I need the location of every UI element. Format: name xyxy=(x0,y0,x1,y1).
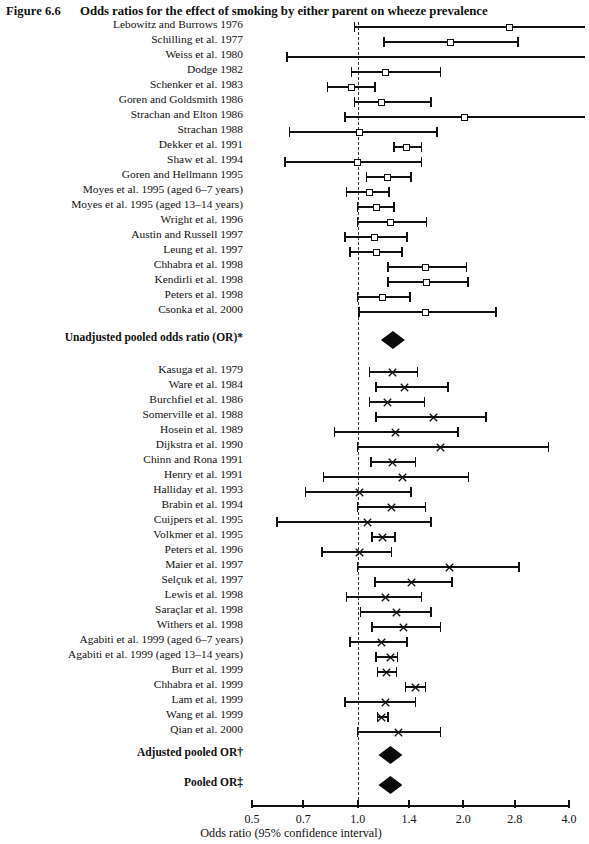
point-estimate-cross xyxy=(383,398,392,407)
ci-cap-upper xyxy=(457,427,459,437)
ci-cap-upper xyxy=(374,82,376,92)
ci-cap-lower xyxy=(354,22,356,32)
ci-cap-upper xyxy=(430,97,432,107)
axis-tick xyxy=(408,800,410,808)
axis-tick xyxy=(251,800,253,808)
axis-tick-label: 0.5 xyxy=(232,812,272,827)
ci-cap-upper xyxy=(421,157,423,167)
confidence-interval-line xyxy=(376,386,448,388)
axis-tick-label: 2.0 xyxy=(443,812,483,827)
ci-cap-upper xyxy=(393,202,395,212)
axis-tick-label: 2.8 xyxy=(495,812,535,827)
ci-cap-lower xyxy=(370,457,372,467)
point-estimate-box xyxy=(382,69,389,76)
ci-cap-lower xyxy=(289,127,291,137)
ci-cap-upper xyxy=(410,172,412,182)
ci-cap-upper xyxy=(518,562,520,572)
point-estimate-cross xyxy=(392,608,401,617)
ci-cap-upper xyxy=(424,397,426,407)
ci-cap-lower xyxy=(387,262,389,272)
point-estimate-cross xyxy=(411,683,420,692)
point-estimate-box xyxy=(366,189,373,196)
ci-cap-lower xyxy=(357,202,359,212)
ci-cap-upper xyxy=(417,367,419,377)
pooled-estimate-diamond xyxy=(378,776,402,794)
ci-cap-lower xyxy=(405,682,407,692)
ci-cap-upper xyxy=(548,442,550,452)
ci-cap-upper xyxy=(440,727,442,737)
pooled-estimate-diamond xyxy=(378,746,402,764)
ci-cap-lower xyxy=(349,637,351,647)
pooled-estimate-diamond xyxy=(381,331,405,349)
ci-cap-lower xyxy=(357,442,359,452)
point-estimate-box xyxy=(378,99,385,106)
ci-cap-lower xyxy=(357,562,359,572)
ci-cap-upper xyxy=(440,622,442,632)
ci-cap-upper xyxy=(397,652,399,662)
ci-cap-lower xyxy=(357,502,359,512)
ci-cap-lower xyxy=(375,652,377,662)
ci-cap-lower xyxy=(286,52,288,62)
ci-cap-lower xyxy=(344,232,346,242)
point-estimate-cross xyxy=(445,563,454,572)
axis-line xyxy=(252,805,569,807)
point-estimate-cross xyxy=(429,413,438,422)
ci-cap-upper xyxy=(409,292,411,302)
ci-cap-lower xyxy=(344,697,346,707)
ci-cap-upper xyxy=(401,247,403,257)
ci-cap-lower xyxy=(351,67,353,77)
ci-cap-upper xyxy=(415,697,417,707)
ci-cap-lower xyxy=(366,172,368,182)
ci-cap-upper xyxy=(468,472,470,482)
point-estimate-cross xyxy=(400,383,409,392)
ci-cap-upper xyxy=(396,667,398,677)
ci-cap-lower xyxy=(387,277,389,287)
point-estimate-box xyxy=(384,174,391,181)
point-estimate-box xyxy=(348,84,355,91)
ci-cap-lower xyxy=(346,592,348,602)
axis-tick xyxy=(514,800,516,808)
point-estimate-cross xyxy=(407,578,416,587)
point-estimate-box xyxy=(422,309,429,316)
point-estimate-box xyxy=(506,24,513,31)
ci-cap-lower xyxy=(334,427,336,437)
axis-tick xyxy=(568,800,570,808)
ci-cap-upper xyxy=(426,217,428,227)
axis-tick-label: 4.0 xyxy=(549,812,589,827)
ci-cap-upper xyxy=(425,682,427,692)
point-estimate-cross xyxy=(388,458,397,467)
point-estimate-cross xyxy=(386,653,395,662)
point-estimate-cross xyxy=(377,638,386,647)
point-estimate-cross xyxy=(355,488,364,497)
ci-cap-lower xyxy=(369,397,371,407)
axis-tick xyxy=(357,800,359,808)
confidence-interval-line xyxy=(358,446,549,448)
confidence-interval-line xyxy=(290,131,437,133)
ci-cap-upper xyxy=(436,127,438,137)
axis-tick-label: 1.4 xyxy=(389,812,429,827)
ci-cap-lower xyxy=(346,187,348,197)
axis-tick-label: 1.0 xyxy=(338,812,378,827)
point-estimate-box xyxy=(354,159,361,166)
ci-cap-upper xyxy=(425,502,427,512)
axis-tick-label: 0.7 xyxy=(283,812,323,827)
confidence-interval-line xyxy=(358,566,519,568)
ci-cap-upper xyxy=(391,547,393,557)
ci-cap-lower xyxy=(371,622,373,632)
ci-cap-lower xyxy=(374,577,376,587)
point-estimate-box xyxy=(373,249,380,256)
point-estimate-box xyxy=(447,39,454,46)
axis-tick xyxy=(302,800,304,808)
point-estimate-cross xyxy=(381,698,390,707)
point-estimate-cross xyxy=(382,668,391,677)
ci-cap-lower xyxy=(357,727,359,737)
ci-cap-lower xyxy=(377,667,379,677)
ci-cap-lower xyxy=(375,412,377,422)
ci-cap-lower xyxy=(357,292,359,302)
ci-cap-lower xyxy=(321,547,323,557)
ci-cap-lower xyxy=(371,532,373,542)
point-estimate-cross xyxy=(388,368,397,377)
point-estimate-cross xyxy=(399,623,408,632)
ci-cap-upper xyxy=(485,412,487,422)
ci-cap-lower xyxy=(327,82,329,92)
